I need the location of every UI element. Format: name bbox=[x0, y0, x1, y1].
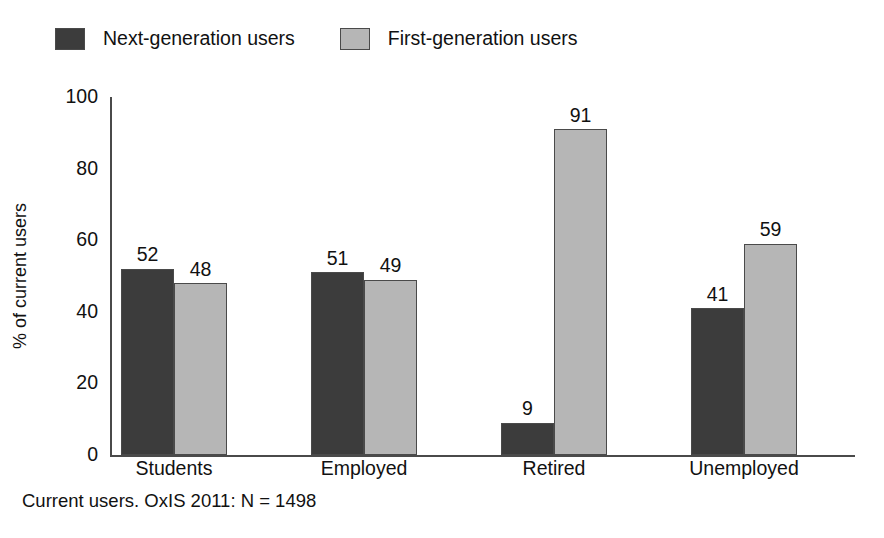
y-tick-label-60: 60 bbox=[76, 230, 98, 250]
legend-label-next-generation: Next-generation users bbox=[103, 29, 295, 49]
x-tick-label-students: Students bbox=[136, 459, 213, 479]
y-tick-label-40: 40 bbox=[76, 302, 98, 322]
bar-employed-first-generation[interactable]: 49 bbox=[364, 280, 417, 455]
bar-employed-next-generation[interactable]: 51 bbox=[311, 272, 364, 455]
x-tick-label-unemployed: Unemployed bbox=[689, 459, 798, 479]
bar-group-unemployed: 41 59 Unemployed bbox=[691, 97, 797, 455]
y-tick-label-100: 100 bbox=[65, 87, 98, 107]
bar-unemployed-first-generation[interactable]: 59 bbox=[744, 244, 797, 455]
bar-retired-next-generation[interactable]: 9 bbox=[501, 423, 554, 455]
legend-item-next-generation-users: Next-generation users bbox=[55, 28, 295, 50]
bar-value-retired-first-generation: 91 bbox=[570, 106, 592, 126]
bar-value-students-next-generation: 52 bbox=[137, 245, 159, 265]
legend-label-first-generation: First-generation users bbox=[388, 29, 578, 49]
bar-retired-first-generation[interactable]: 91 bbox=[554, 129, 607, 455]
y-tick-label-80: 80 bbox=[76, 159, 98, 179]
legend-swatch-icon-first-generation bbox=[340, 28, 370, 50]
x-tick-label-retired: Retired bbox=[523, 459, 586, 479]
legend-swatch-icon-next-generation bbox=[55, 28, 85, 50]
chart-legend: Next-generation users First-generation u… bbox=[55, 24, 578, 54]
bar-value-unemployed-next-generation: 41 bbox=[707, 285, 729, 305]
bar-students-first-generation[interactable]: 48 bbox=[174, 283, 227, 455]
bar-value-employed-first-generation: 49 bbox=[380, 256, 402, 276]
bar-unemployed-next-generation[interactable]: 41 bbox=[691, 308, 744, 455]
y-tick-label-20: 20 bbox=[76, 374, 98, 394]
bar-group-employed: 51 49 Employed bbox=[311, 97, 417, 455]
bar-group-retired: 9 91 Retired bbox=[501, 97, 607, 455]
y-axis-title: % of current users bbox=[11, 203, 29, 349]
x-tick-label-employed: Employed bbox=[321, 459, 408, 479]
plot-area: 100 80 60 40 20 0 52 48 Students 51 49 E… bbox=[110, 97, 855, 455]
y-tick-label-0: 0 bbox=[87, 445, 98, 465]
bar-group-students: 52 48 Students bbox=[121, 97, 227, 455]
legend-item-first-generation-users: First-generation users bbox=[340, 28, 578, 50]
bar-value-unemployed-first-generation: 59 bbox=[760, 220, 782, 240]
bar-value-students-first-generation: 48 bbox=[190, 260, 212, 280]
bar-value-retired-next-generation: 9 bbox=[522, 399, 533, 419]
bar-students-next-generation[interactable]: 52 bbox=[121, 269, 174, 455]
bar-value-employed-next-generation: 51 bbox=[327, 249, 349, 269]
bar-chart-figure: Next-generation users First-generation u… bbox=[0, 0, 884, 538]
y-axis-line bbox=[110, 97, 112, 455]
chart-footnote: Current users. OxIS 2011: N = 1498 bbox=[22, 492, 316, 511]
